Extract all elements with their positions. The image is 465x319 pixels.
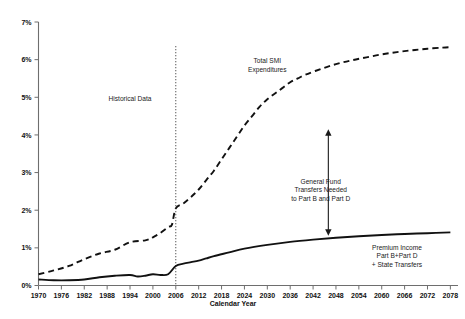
x-tick-label: 2012 (191, 292, 207, 299)
x-tick-label: 2000 (145, 292, 161, 299)
smi-expenditures-chart: 0%1%2%3%4%5%6%7% 19701976198219881994200… (0, 0, 465, 319)
x-tick-label: 2072 (420, 292, 436, 299)
x-tick-label: 2036 (282, 292, 298, 299)
x-tick-label: 1994 (122, 292, 138, 299)
y-tick-label: 3% (21, 169, 32, 176)
y-tick-label: 6% (21, 56, 32, 63)
y-tick-label: 5% (21, 94, 32, 101)
x-tick-label: 2054 (351, 292, 367, 299)
chart-root: 0%1%2%3%4%5%6%7% 19701976198219881994200… (0, 0, 465, 319)
y-tick-label: 0% (21, 282, 32, 289)
x-tick-label: 2078 (443, 292, 459, 299)
y-tick-label: 2% (21, 207, 32, 214)
annotation-premium-income: Premium IncomePart B+Part D+ State Trans… (372, 244, 423, 268)
x-tick-label: 2042 (305, 292, 321, 299)
x-tick-label: 2018 (214, 292, 230, 299)
x-tick-label: 2006 (168, 292, 184, 299)
y-tick-label: 1% (21, 244, 32, 251)
x-tick-label: 2048 (328, 292, 344, 299)
x-tick-label: 2030 (260, 292, 276, 299)
x-tick-label: 2060 (374, 292, 390, 299)
x-tick-label: 2024 (237, 292, 253, 299)
y-tick-label: 7% (21, 19, 32, 26)
x-tick-label: 1988 (99, 292, 115, 299)
chart-background (0, 0, 465, 319)
x-tick-label: 1970 (31, 292, 47, 299)
x-axis-title: Calendar Year (210, 300, 257, 307)
x-tick-label: 1976 (54, 292, 70, 299)
annotation-historical-data: Historical Data (109, 95, 152, 102)
x-tick-label: 1982 (76, 292, 92, 299)
x-tick-label: 2066 (397, 292, 413, 299)
y-tick-label: 4% (21, 132, 32, 139)
